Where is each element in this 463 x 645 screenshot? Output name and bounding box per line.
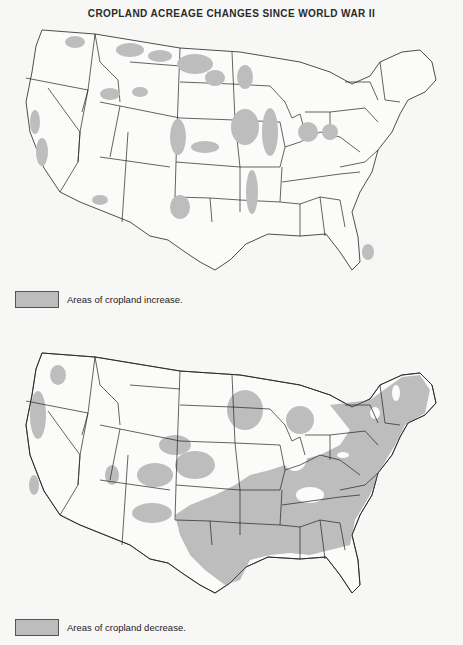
legend-increase: Areas of cropland increase. (15, 291, 183, 308)
legend-decrease: Areas of cropland decrease. (15, 619, 186, 636)
map-title: CROPLAND ACREAGE CHANGES SINCE WORLD WAR… (0, 8, 463, 19)
legend-label-decrease: Areas of cropland decrease. (67, 622, 186, 633)
legend-swatch-increase (15, 291, 59, 308)
cropland-increase-map (0, 22, 463, 282)
us-map-decrease (0, 340, 463, 610)
legend-label-increase: Areas of cropland increase. (67, 294, 183, 305)
us-map-increase (0, 22, 463, 282)
legend-swatch-decrease (15, 619, 59, 636)
cropland-decrease-map (0, 340, 463, 610)
